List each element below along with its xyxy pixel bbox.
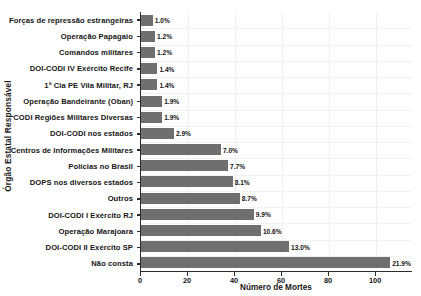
y-tick-label: Outros [14,191,137,207]
bar-row[interactable]: 1.4% [141,77,412,93]
y-tick-label: Operação Bandeirante (Oban) [14,93,137,109]
bar[interactable]: 1.4% [141,63,157,74]
y-tick-label: CODI Regiões Militares Diversas [14,110,137,126]
bar-value-label: 1.9% [164,98,179,105]
plot-area: 1.0%1.2%1.2%1.4%1.4%1.9%1.9%2.9%7.0%7.7%… [140,12,412,272]
bar[interactable]: 1.9% [141,112,162,123]
bar-row[interactable]: 10.6% [141,222,412,238]
bar-value-label: 9.9% [256,211,271,218]
bar-row[interactable]: 7.7% [141,158,412,174]
bar-value-label: 10.6% [263,227,282,234]
bar-value-label: 1.2% [157,33,172,40]
y-tick-label: Polícias no Brasil [14,158,137,174]
y-tick-label: DOI-CODI II Exército SP [14,240,137,256]
bar-value-label: 7.7% [230,162,245,169]
bar[interactable]: 7.7% [141,160,228,171]
y-axis-label: Órgão Estatal Responsável [3,80,13,192]
y-tick-label: Operação Papagaio [14,28,137,44]
bar[interactable]: 1.4% [141,79,157,90]
bar-row[interactable]: 8.1% [141,174,412,190]
x-axis-label: Número de Mortes [140,283,412,292]
bar-row[interactable]: 2.9% [141,125,412,141]
bar[interactable]: 10.6% [141,225,261,236]
bar[interactable]: 8.1% [141,176,233,187]
bar[interactable]: 7.0% [141,144,221,155]
bar-value-label: 1.0% [155,17,170,24]
bar-row[interactable]: 1.0% [141,12,412,28]
y-tick-label: DOI-CODI I Exército RJ [14,207,137,223]
bar-row[interactable]: 9.9% [141,206,412,222]
y-tick-label: Não consta [14,256,137,272]
y-tick-label: 1ª Cia PE Vila Militar, RJ [14,77,137,93]
bar-value-label: 2.9% [176,130,191,137]
bar[interactable]: 2.9% [141,128,174,139]
bar[interactable]: 8.7% [141,193,240,204]
bar-row[interactable]: 13.0% [141,239,412,255]
y-tick-label: DOPS nos diversos estados [14,175,137,191]
bar-value-label: 1.4% [159,65,174,72]
bar-value-label: 8.7% [242,195,257,202]
bar-row[interactable]: 1.9% [141,93,412,109]
bar-value-label: 7.0% [223,146,238,153]
bar[interactable]: 1.2% [141,31,155,42]
chart-figure: Órgão Estatal Responsável Forças de repr… [0,0,421,296]
bar-row[interactable]: 1.4% [141,61,412,77]
bar[interactable]: 21.9% [141,257,390,268]
bar-row[interactable]: 7.0% [141,142,412,158]
bar[interactable]: 9.9% [141,209,254,220]
y-tick-label: Comandos militares [14,45,137,61]
bar-series: 1.0%1.2%1.2%1.4%1.4%1.9%1.9%2.9%7.0%7.7%… [141,12,412,271]
bar[interactable]: 1.0% [141,15,153,26]
bar-value-label: 1.9% [164,114,179,121]
bar-row[interactable]: 8.7% [141,190,412,206]
bar-value-label: 8.1% [235,178,250,185]
bar-row[interactable]: 1.2% [141,44,412,60]
y-tick-label: Centros de Informações Militares [14,142,137,158]
bar[interactable]: 13.0% [141,241,289,252]
y-tick-label: Operação Marajoara [14,223,137,239]
bar-value-label: 21.9% [392,259,411,266]
bar-row[interactable]: 1.2% [141,28,412,44]
bar-value-label: 13.0% [291,243,310,250]
bar-value-label: 1.4% [159,81,174,88]
bar-value-label: 1.2% [157,49,172,56]
y-tick-label: DOI-CODI IV Exército Recife [14,61,137,77]
bar-row[interactable]: 21.9% [141,255,412,271]
y-tick-label: DOI-CODI nos estados [14,126,137,142]
bar[interactable]: 1.2% [141,47,155,58]
y-tick-label: Forças de repressão estrangeiras [14,12,137,28]
bar[interactable]: 1.9% [141,96,162,107]
bar-row[interactable]: 1.9% [141,109,412,125]
y-axis-tick-labels: Forças de repressão estrangeiras Operaçã… [14,12,137,272]
